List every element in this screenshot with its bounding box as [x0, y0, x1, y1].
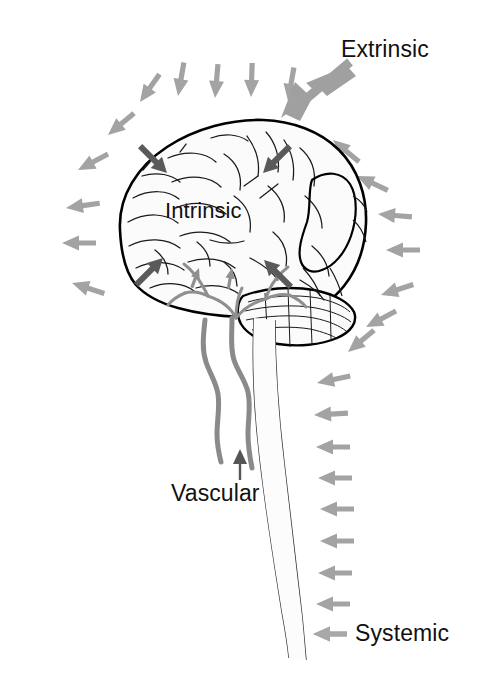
label-vascular: Vascular	[171, 482, 260, 505]
brain-influences-figure: Extrinsic Intrinsic Vascular Systemic	[0, 0, 479, 689]
label-intrinsic: Intrinsic	[165, 200, 242, 222]
label-extrinsic: Extrinsic	[341, 38, 429, 61]
label-systemic: Systemic	[355, 622, 449, 645]
systemic-arrow	[313, 627, 347, 642]
vascular-vessels	[203, 318, 252, 468]
diagram-canvas	[0, 0, 479, 689]
brainstem-spinal-cord	[253, 318, 306, 660]
vascular-arrow	[233, 449, 247, 480]
